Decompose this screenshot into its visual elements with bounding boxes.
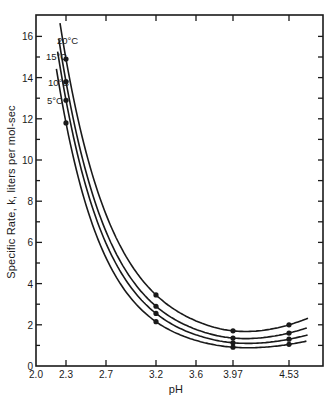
- x-tick-label: 3.2: [149, 369, 163, 380]
- data-point: [286, 322, 291, 327]
- data-point: [63, 120, 68, 125]
- data-points: [63, 56, 291, 349]
- data-point: [153, 319, 158, 324]
- x-tick-label: 3.6: [189, 369, 203, 380]
- curve-20c: [60, 23, 308, 331]
- y-tick-label: 4: [27, 279, 33, 290]
- series-label-15c: 15°C: [46, 51, 67, 62]
- rate-vs-ph-chart: 2.02.32.73.23.63.974.530246810121416 20°…: [0, 0, 336, 407]
- x-axis-title: pH: [169, 383, 183, 395]
- y-tick-label: 6: [27, 237, 33, 248]
- x-tick-label: 4.53: [279, 369, 299, 380]
- data-point: [286, 337, 291, 342]
- x-tick-label: 2.7: [99, 369, 113, 380]
- y-tick-label: 8: [27, 196, 33, 207]
- y-tick-label: 10: [22, 155, 34, 166]
- y-tick-label: 16: [22, 31, 34, 42]
- y-axis-title: Specific Rate, k, liters per mol-sec: [5, 105, 17, 279]
- y-tick-label: 2: [27, 320, 33, 331]
- data-point: [230, 345, 235, 350]
- x-tick-label: 3.97: [223, 369, 243, 380]
- data-point: [153, 311, 158, 316]
- y-tick-label: 14: [22, 73, 34, 84]
- data-point: [230, 340, 235, 345]
- curve-10c: [58, 52, 308, 344]
- data-point: [153, 304, 158, 309]
- series-label-10c: 10°C: [48, 77, 69, 88]
- data-point: [286, 330, 291, 335]
- data-point: [63, 98, 68, 103]
- data-point: [153, 292, 158, 297]
- series-label-20c: 20°C: [57, 35, 78, 46]
- series-label-5c: 5°C: [47, 95, 63, 106]
- x-tick-label: 2.3: [59, 369, 73, 380]
- data-point: [286, 342, 291, 347]
- y-tick-label: 12: [22, 114, 34, 125]
- curve-5c: [56, 69, 306, 348]
- data-point: [230, 328, 235, 333]
- y-tick-label: 0: [27, 361, 33, 372]
- data-point: [230, 335, 235, 340]
- series-curves: [56, 23, 308, 348]
